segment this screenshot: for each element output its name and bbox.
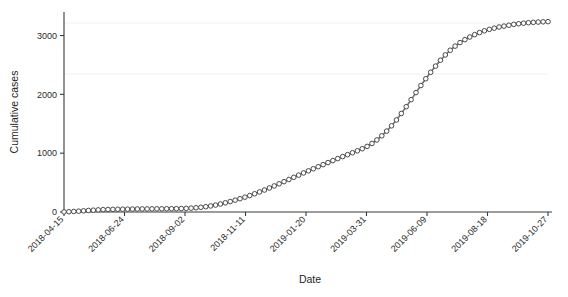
- data-point: [404, 104, 409, 109]
- data-point: [531, 20, 536, 25]
- x-tick-label: 2019-08-18: [449, 214, 489, 254]
- data-point: [208, 204, 213, 209]
- data-point: [316, 164, 321, 169]
- data-point: [194, 205, 199, 210]
- data-point: [394, 118, 399, 123]
- data-point: [375, 138, 380, 143]
- x-tick-label: 2019-03-31: [328, 214, 368, 254]
- data-point: [101, 207, 106, 212]
- data-point: [120, 207, 125, 212]
- data-point: [257, 190, 262, 195]
- data-point: [497, 25, 502, 30]
- series-line: [64, 22, 548, 212]
- cumulative-cases-chart: 0100020003000 2018-04-152018-06-242018-0…: [0, 0, 568, 297]
- data-point: [428, 70, 433, 75]
- data-point: [174, 206, 179, 211]
- data-point: [443, 53, 448, 58]
- data-point: [335, 156, 340, 161]
- data-point: [370, 141, 375, 146]
- data-point: [384, 129, 389, 134]
- data-point: [267, 186, 272, 191]
- data-point: [223, 201, 228, 206]
- y-tick-label: 1000: [37, 148, 57, 158]
- data-point: [150, 207, 155, 212]
- data-point: [291, 175, 296, 180]
- data-point: [541, 20, 546, 25]
- data-point: [252, 191, 257, 196]
- data-point: [71, 209, 76, 214]
- data-point: [243, 195, 248, 200]
- x-axis-ticks: 2018-04-152018-06-242018-09-022018-11-11…: [26, 212, 550, 254]
- data-point: [492, 26, 497, 31]
- data-point: [536, 20, 541, 25]
- data-point: [511, 22, 516, 27]
- x-axis-title: Date: [299, 273, 321, 285]
- data-point: [169, 206, 174, 211]
- data-point: [135, 207, 140, 212]
- data-point: [463, 37, 468, 42]
- x-tick-label: 2018-06-24: [86, 214, 126, 254]
- data-point: [277, 182, 282, 187]
- data-point: [467, 35, 472, 40]
- data-point: [507, 23, 512, 28]
- data-point: [472, 32, 477, 37]
- data-point: [62, 210, 67, 215]
- data-point: [345, 152, 350, 157]
- x-tick-label: 2019-01-20: [268, 214, 308, 254]
- data-point: [199, 205, 204, 210]
- data-point: [86, 208, 91, 213]
- data-point: [159, 207, 164, 212]
- data-point: [526, 20, 531, 25]
- data-point: [350, 150, 355, 155]
- data-point: [189, 206, 194, 211]
- data-point: [389, 124, 394, 129]
- data-point: [76, 209, 81, 214]
- data-point: [379, 134, 384, 139]
- data-point: [453, 44, 458, 49]
- y-axis: 0100020003000: [37, 12, 64, 217]
- data-point: [433, 64, 438, 69]
- data-point: [115, 207, 120, 212]
- y-tick-label: 3000: [37, 31, 57, 41]
- data-point: [414, 90, 419, 95]
- data-point: [238, 196, 243, 201]
- data-point: [311, 166, 316, 171]
- data-point: [96, 208, 101, 213]
- data-point: [482, 29, 487, 34]
- data-point: [326, 160, 331, 165]
- data-point: [448, 48, 453, 53]
- data-point: [516, 21, 521, 26]
- data-point: [331, 158, 336, 163]
- x-axis: 2018-04-152018-06-242018-09-022018-11-11…: [26, 212, 552, 254]
- data-point: [340, 154, 345, 159]
- data-point: [296, 173, 301, 178]
- data-point: [282, 179, 287, 184]
- cumulative-cases-series: [62, 19, 551, 214]
- x-tick-label: 2019-10-27: [510, 214, 550, 254]
- data-point: [228, 199, 233, 204]
- data-point: [365, 144, 370, 149]
- data-point: [399, 111, 404, 116]
- data-point: [360, 146, 365, 151]
- data-point: [521, 21, 526, 26]
- data-point: [81, 209, 86, 214]
- data-point: [419, 83, 424, 88]
- data-point: [247, 193, 252, 198]
- data-point: [213, 203, 218, 208]
- x-tick-label: 2018-09-02: [147, 214, 187, 254]
- data-point: [409, 97, 414, 102]
- series-markers: [62, 19, 551, 214]
- data-point: [130, 207, 135, 212]
- x-tick-label: 2018-04-15: [26, 214, 66, 254]
- data-point: [67, 209, 72, 214]
- data-point: [458, 40, 463, 45]
- data-point: [438, 58, 443, 63]
- data-point: [355, 149, 360, 154]
- data-point: [233, 198, 238, 203]
- data-point: [546, 19, 551, 24]
- data-point: [164, 206, 169, 211]
- data-point: [140, 207, 145, 212]
- data-point: [272, 184, 277, 189]
- data-point: [106, 207, 111, 212]
- x-tick-label: 2018-11-11: [208, 214, 247, 253]
